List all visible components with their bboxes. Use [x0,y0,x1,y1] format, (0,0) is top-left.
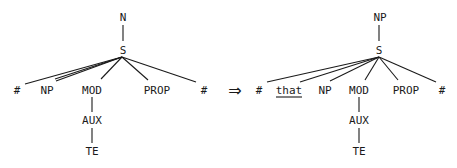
left-aux-node: AUX [82,114,102,127]
right-te-node: TE [352,145,365,158]
left-edge-hash2 [122,57,196,82]
right-mod-node: MOD [349,84,369,97]
right-edge-that [300,57,379,82]
left-boundary-hash-start: # [13,84,21,97]
left-mod-node: MOD [82,84,102,97]
tree-diagram: N S # NP MOD PROP # AUX TE ⇒ NP S # that… [0,0,457,168]
left-edge-np-b [56,57,122,81]
right-boundary-hash-end: # [438,84,446,97]
right-boundary-hash-start: # [255,84,263,97]
left-s-node: S [120,44,127,57]
left-te-node: TE [85,145,98,158]
right-s-node: S [376,44,383,57]
left-np-node: NP [40,84,54,97]
right-that-node: that [276,84,303,97]
right-edge-hash2 [379,57,436,82]
right-np-node: NP [318,84,332,97]
right-edge-prop [379,57,398,80]
right-tree: NP S # that NP MOD PROP # AUX TE [255,11,446,158]
transformation-arrow-icon: ⇒ [228,81,241,100]
left-prop-node: PROP [144,84,171,97]
left-tree: N S # NP MOD PROP # AUX TE [13,11,208,158]
left-edge-prop [122,57,148,80]
right-prop-node: PROP [393,84,420,97]
right-aux-node: AUX [349,114,369,127]
right-root-node: NP [373,11,387,24]
left-root-node: N [120,11,127,24]
right-edge-hash1 [267,57,379,82]
left-boundary-hash-end: # [200,84,208,97]
left-edge-hash1 [25,57,122,84]
